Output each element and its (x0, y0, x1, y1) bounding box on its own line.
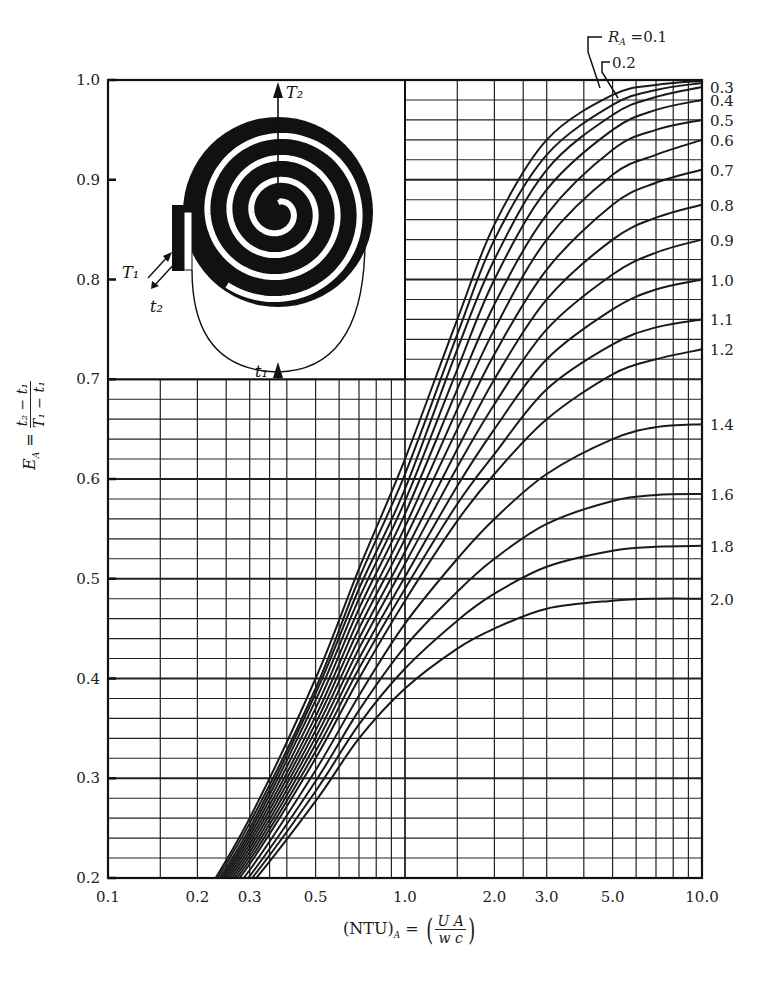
x-label-symbol: (NTU) (343, 919, 394, 938)
x-tick-label: 0.2 (185, 888, 209, 906)
T1-label: T₁ (122, 263, 139, 282)
y-tick-label: 1.0 (76, 71, 100, 89)
x-tick-label: 0.5 (304, 888, 328, 906)
x-tick-label: 10.0 (685, 888, 718, 906)
series-label: 0.8 (710, 197, 734, 215)
x-tick-label: 5.0 (601, 888, 625, 906)
y-tick-label: 0.5 (76, 570, 100, 588)
series-label: 1.0 (710, 272, 734, 290)
series-label: 0.9 (710, 232, 734, 250)
series-label: 1.1 (710, 311, 734, 329)
y-tick-label: 0.3 (76, 769, 100, 787)
series-label: 1.6 (710, 486, 734, 504)
y-label-numerator: t₂ − t₁ (14, 381, 31, 428)
x-tick-label: 3.0 (535, 888, 559, 906)
mask-left (0, 0, 107, 981)
series-label: 1.4 (710, 416, 734, 434)
y-tick-label: 0.8 (76, 271, 100, 289)
chart-curves (0, 0, 761, 981)
x-label-equals: = (405, 919, 418, 938)
outlet-duct (184, 212, 192, 270)
y-tick-label: 0.4 (76, 670, 100, 688)
effectiveness-chart: T₂T₁t₂t₁ 0.20.30.40.50.60.70.80.91.00.10… (0, 0, 761, 981)
series-label-R0-2: 0.2 (612, 54, 636, 72)
y-label-subscript: A (31, 452, 41, 459)
y-label-equals: = (20, 433, 39, 446)
x-label-denominator: w c (438, 930, 462, 946)
x-tick-label: 0.3 (238, 888, 262, 906)
inlet-duct (172, 205, 184, 271)
series-label: 0.7 (710, 162, 734, 180)
y-label-fraction: t₂ − t₁ T₁ − t₁ (14, 381, 47, 428)
y-tick-label: 0.6 (76, 470, 100, 488)
t1-label: t₁ (255, 362, 268, 381)
x-label-subscript: A (394, 930, 401, 940)
x-tick-label: 2.0 (482, 888, 506, 906)
x-label-fraction: U A w c (435, 913, 465, 946)
series-label-R0-1: RA =0.1 (607, 28, 667, 47)
y-axis-label: EA = t₂ − t₁ T₁ − t₁ (14, 381, 47, 470)
y-tick-label: 0.9 (76, 171, 100, 189)
series-label: 1.8 (710, 538, 734, 556)
series-labels: 0.30.40.50.60.70.80.91.01.11.21.41.61.82… (588, 28, 734, 609)
series-label: 1.2 (710, 341, 734, 359)
y-tick-label: 0.2 (76, 869, 100, 887)
y-label-symbol: E (20, 458, 39, 470)
series-label: 2.0 (710, 591, 734, 609)
series-label: 0.5 (710, 112, 734, 130)
x-axis-label: (NTU)A = ( U A w c ) (343, 912, 478, 947)
series-label: 0.6 (710, 132, 734, 150)
curve-1-6 (197, 494, 702, 936)
y-tick-label: 0.7 (76, 370, 100, 388)
x-label-numerator: U A (435, 913, 465, 930)
y-label-denominator: T₁ − t₁ (31, 381, 47, 428)
T2-label: T₂ (286, 83, 303, 102)
x-tick-label: 1.0 (393, 888, 417, 906)
t2-label: t₂ (150, 297, 163, 316)
x-tick-label: 0.1 (96, 888, 120, 906)
series-label: 0.4 (710, 92, 734, 110)
